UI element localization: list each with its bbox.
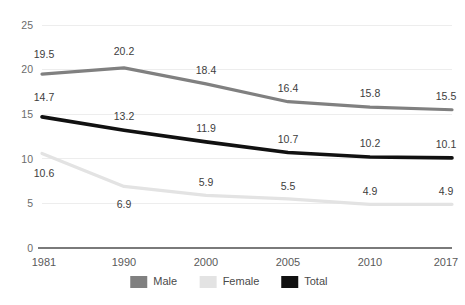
data-label-male-2005: 16.4	[278, 82, 299, 94]
data-label-female-1981: 10.6	[34, 167, 55, 179]
data-label-female-2017: 4.9	[439, 185, 454, 197]
y-tick-label: 5	[27, 197, 33, 209]
y-tick-label: 20	[21, 63, 33, 75]
data-label-total-2010: 10.2	[360, 137, 381, 149]
x-tick-label-1990: 1990	[112, 256, 136, 268]
y-tick-label: 25	[21, 19, 33, 31]
data-label-male-2000: 18.4	[196, 64, 217, 76]
data-label-total-2005: 10.7	[278, 133, 299, 145]
legend-swatch-male[interactable]	[130, 276, 147, 288]
data-label-total-1981: 14.7	[34, 91, 55, 103]
chart-canvas: 0510152025 19.520.218.416.415.815.510.66…	[0, 0, 465, 305]
data-label-female-1990: 6.9	[117, 198, 132, 210]
y-tick-label: 0	[27, 242, 33, 254]
data-label-female-2010: 4.9	[363, 185, 378, 197]
data-label-male-1990: 20.2	[114, 45, 135, 57]
y-tick-label: 15	[21, 108, 33, 120]
x-tick-label-2010: 2010	[358, 256, 382, 268]
series-line-male	[42, 68, 452, 110]
data-label-total-1990: 13.2	[114, 110, 135, 122]
legend-swatch-total[interactable]	[281, 276, 298, 288]
y-tick-label: 10	[21, 153, 33, 165]
data-label-total-2017: 10.1	[436, 138, 457, 150]
line-chart: 0510152025 19.520.218.416.415.815.510.66…	[0, 0, 465, 305]
x-tick-label-2000: 2000	[194, 256, 218, 268]
legend-label-female[interactable]: Female	[223, 275, 260, 287]
series-line-total	[42, 117, 452, 158]
data-label-male-2017: 15.5	[436, 90, 457, 102]
y-axis-tick-labels: 0510152025	[21, 19, 33, 254]
legend-swatch-female[interactable]	[200, 276, 217, 288]
x-tick-label-2017: 2017	[434, 256, 458, 268]
x-tick-label-1981: 1981	[32, 256, 56, 268]
data-label-female-2005: 5.5	[281, 180, 296, 192]
data-label-total-2000: 11.9	[196, 122, 216, 134]
x-tick-label-2005: 2005	[276, 256, 300, 268]
chart-legend: MaleFemaleTotal	[130, 275, 327, 288]
data-label-male-2010: 15.8	[360, 87, 381, 99]
data-label-male-1981: 19.5	[34, 48, 55, 60]
legend-label-male[interactable]: Male	[153, 275, 177, 287]
x-axis-tick-labels: 198119902000200520102017	[32, 256, 458, 268]
series-line-female	[42, 153, 452, 204]
series-lines	[42, 68, 452, 204]
legend-label-total[interactable]: Total	[304, 275, 327, 287]
data-label-female-2000: 5.9	[199, 176, 214, 188]
